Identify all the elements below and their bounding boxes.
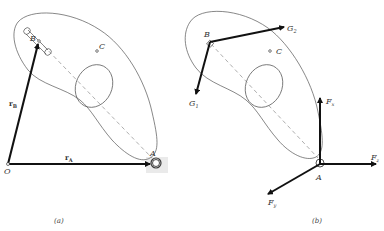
point-b: [38, 40, 41, 43]
panel-a: B C O A rB rA (a): [4, 13, 168, 225]
force-fy: [268, 164, 320, 194]
label-g1: G1: [189, 99, 199, 109]
axis-line: [39, 41, 152, 158]
label-r-a: rA: [65, 153, 73, 163]
label-fz: Fz: [370, 153, 380, 163]
label-b: B: [29, 34, 36, 43]
cross-section-b: [238, 58, 289, 113]
origin-point: [7, 163, 10, 166]
label-a-b: A: [315, 173, 322, 182]
label-c: C: [99, 42, 105, 51]
force-g1: [196, 42, 210, 94]
label-g2: G2: [287, 24, 297, 34]
caption-a: (a): [54, 217, 64, 225]
point-c: [96, 50, 99, 53]
panel-b: B C A G2 G1 Fx Fz Fy (b): [185, 11, 379, 225]
label-fx: Fx: [325, 97, 335, 107]
label-b-b: B: [203, 30, 210, 39]
label-fy: Fy: [267, 198, 277, 209]
point-c-b: [269, 50, 272, 53]
caption-b: (b): [312, 217, 322, 225]
mechanics-diagram: B C O A rB rA (a) B C A G2 G1 Fx Fz Fy (…: [0, 0, 384, 231]
force-g2: [210, 27, 284, 42]
axis-line-b: [211, 44, 318, 158]
cross-section: [68, 58, 119, 113]
label-a: A: [149, 149, 156, 158]
label-o: O: [4, 167, 11, 176]
label-r-b: rB: [9, 99, 17, 109]
label-c-b: C: [276, 47, 282, 56]
